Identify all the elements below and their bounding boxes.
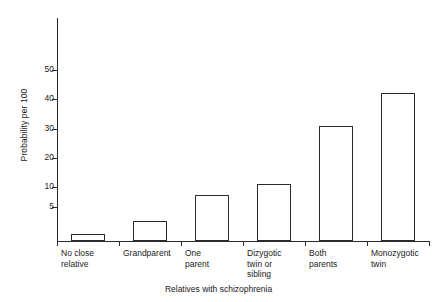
bar — [195, 195, 229, 241]
bar — [71, 234, 105, 241]
bar — [133, 221, 167, 241]
y-tick-20: 20 — [57, 158, 58, 159]
x-tick-mark — [243, 241, 244, 246]
y-tick-label: 10 — [45, 181, 54, 191]
y-tick-30: 30 — [57, 129, 58, 130]
y-axis-title: Probability per 100 — [19, 55, 29, 195]
y-tick-label: 5 — [49, 201, 54, 211]
y-tick-5: 5 — [57, 207, 58, 208]
x-category-label: Monozygotic twin — [371, 248, 429, 269]
bar — [319, 126, 353, 241]
y-tick-50: 50 — [57, 70, 58, 71]
x-category-label: No close relative — [61, 248, 119, 269]
y-axis-line — [57, 18, 58, 242]
x-tick-mark — [57, 241, 58, 246]
y-tick-label: 20 — [45, 152, 54, 162]
y-tick-10: 10 — [57, 187, 58, 188]
y-tick-label: 50 — [45, 64, 54, 74]
x-category-label: Grandparent — [123, 248, 181, 259]
y-tick-40: 40 — [57, 99, 58, 100]
y-tick-label: 30 — [45, 123, 54, 133]
bar-chart: Probability per 100 51020304050 No close… — [0, 0, 437, 302]
x-tick-mark — [119, 241, 120, 246]
x-tick-mark — [429, 241, 430, 246]
x-category-label: Dizygotic twin or sibling — [247, 248, 305, 280]
bar — [257, 184, 291, 241]
x-axis-title: Relatives with schizophrenia — [0, 284, 437, 294]
x-category-label: One parent — [185, 248, 243, 269]
x-tick-mark — [181, 241, 182, 246]
y-tick-label: 40 — [45, 93, 54, 103]
bar — [381, 93, 415, 241]
x-category-label: Both parents — [309, 248, 367, 269]
plot-area: 51020304050 — [57, 18, 429, 242]
x-tick-mark — [305, 241, 306, 246]
x-tick-mark — [367, 241, 368, 246]
